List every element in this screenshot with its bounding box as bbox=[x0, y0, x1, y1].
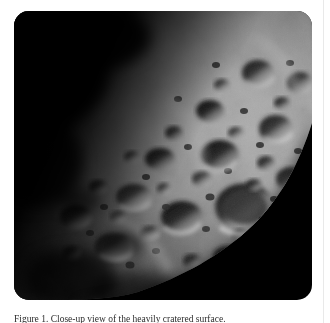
figure-caption: Figure 1. Close-up view of the heavily c… bbox=[14, 313, 314, 323]
moon-surface-illustration bbox=[14, 11, 312, 300]
column-rule bbox=[323, 0, 324, 323]
document-page: Figure 1. Close-up view of the heavily c… bbox=[0, 0, 330, 323]
figure-image bbox=[14, 11, 312, 300]
